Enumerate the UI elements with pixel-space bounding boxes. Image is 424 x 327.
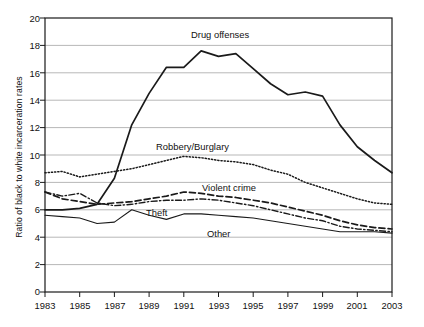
series-label-theft: Theft — [146, 207, 167, 218]
series-line-theft — [45, 192, 392, 232]
plot-canvas — [0, 0, 424, 327]
series-line-robbery-burglary — [45, 156, 392, 204]
series-label-drug-offenses: Drug offenses — [191, 29, 249, 40]
series-label-violent-crime: Violent crime — [202, 182, 256, 193]
series-label-other: Other — [207, 228, 230, 239]
series-label-robbery-burglary: Robbery/Burglary — [156, 141, 229, 152]
incarceration-ratio-line-chart: Ratio of black to white incarceration ra… — [0, 0, 424, 327]
